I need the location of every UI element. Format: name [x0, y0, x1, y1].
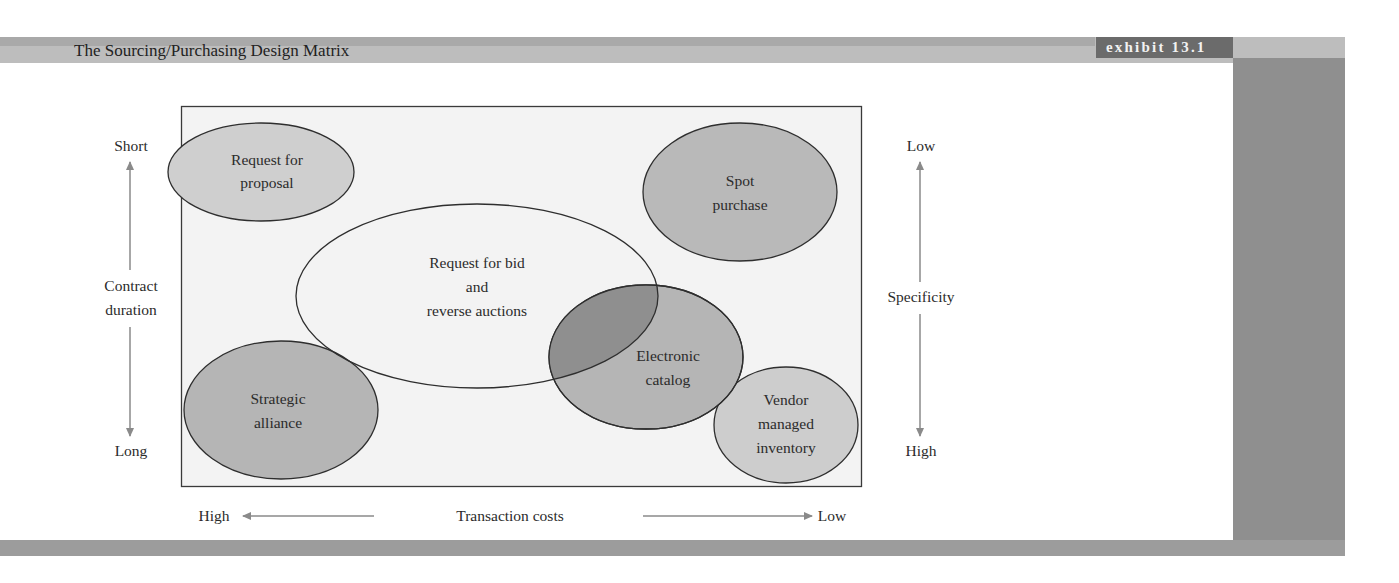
sourcing-matrix-diagram: Request for proposal Spot purchase Strat… — [0, 0, 1399, 583]
rfb-label-line3: reverse auctions — [427, 302, 527, 319]
contract-duration-axis: Short Contract duration Long — [104, 137, 158, 459]
spot-label-line2: purchase — [712, 196, 767, 213]
specificity-low-label: Low — [907, 137, 936, 154]
ellipse-request-for-proposal: Request for proposal — [168, 123, 354, 221]
transaction-low-label: Low — [818, 507, 847, 524]
transaction-costs-axis: High Transaction costs Low — [199, 507, 848, 524]
ellipse-spot-purchase: Spot purchase — [643, 123, 837, 261]
rfp-label-line2: proposal — [240, 174, 293, 191]
contract-long-label: Long — [115, 442, 148, 459]
ecatalog-label-line2: catalog — [646, 371, 691, 388]
specificity-axis: Low Specificity High — [887, 137, 954, 459]
specificity-title: Specificity — [887, 288, 954, 305]
vmi-label-line1: Vendor — [764, 391, 810, 408]
contract-duration-title-line1: Contract — [104, 277, 158, 294]
strategic-label-line1: Strategic — [250, 390, 305, 407]
strategic-label-line2: alliance — [254, 414, 302, 431]
specificity-high-label: High — [906, 442, 937, 459]
rfp-label-line1: Request for — [231, 151, 304, 168]
transaction-costs-title: Transaction costs — [456, 507, 564, 524]
ecatalog-label-line1: Electronic — [636, 347, 700, 364]
contract-short-label: Short — [114, 137, 148, 154]
rfb-label-line2: and — [466, 278, 489, 295]
rfb-label-line1: Request for bid — [429, 254, 525, 271]
contract-duration-title-line2: duration — [105, 301, 157, 318]
vmi-label-line2: managed — [758, 415, 814, 432]
spot-label-line1: Spot — [726, 172, 755, 189]
vmi-label-line3: inventory — [756, 439, 816, 456]
transaction-high-label: High — [199, 507, 230, 524]
